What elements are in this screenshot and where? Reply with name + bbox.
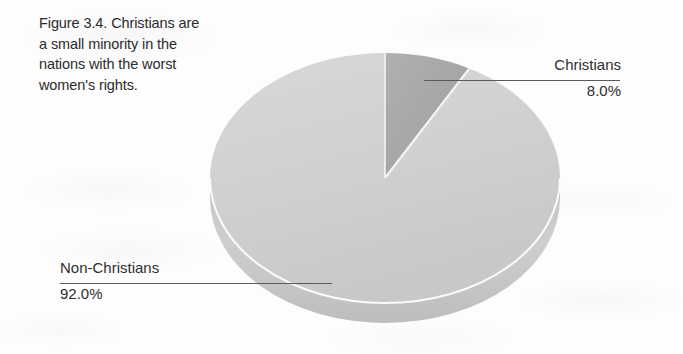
caption-line-4: women's rights.	[39, 75, 279, 96]
data-label-christians-percent: 8.0%	[554, 81, 621, 100]
caption-line-2: a small minority in the	[39, 34, 279, 55]
data-label-christians-category: Christians	[554, 55, 621, 74]
figure-caption: Figure 3.4. Christians are a small minor…	[39, 13, 279, 95]
data-label-non-christians: Non-Christians 92.0%	[60, 258, 159, 303]
caption-line-3: nations with the worst	[39, 54, 279, 75]
data-label-non-christians-category: Non-Christians	[60, 258, 159, 277]
data-label-non-christians-percent: 92.0%	[60, 284, 159, 303]
figure-page: Figure 3.4. Christians are a small minor…	[0, 0, 683, 354]
caption-line-1: Figure 3.4. Christians are	[39, 13, 279, 34]
data-label-christians: Christians 8.0%	[554, 55, 621, 100]
